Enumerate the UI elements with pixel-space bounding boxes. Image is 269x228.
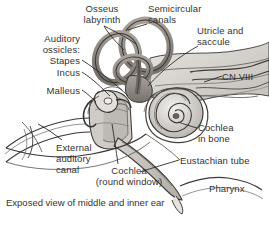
label-cn-viii: CN VIII bbox=[222, 71, 268, 82]
figure-caption: Exposed view of middle and inner ear bbox=[6, 197, 164, 208]
label-eustachian-tube: Eustachian tube bbox=[180, 155, 268, 166]
leader-malleus bbox=[82, 90, 96, 102]
label-cochlea-in-bone: Cochlea in bone bbox=[198, 122, 266, 144]
label-pharynx: Pharynx bbox=[209, 183, 265, 194]
label-utricle-and-saccule: Utricle and saccule bbox=[197, 25, 267, 47]
ear-anatomy-figure: Osseus labyrinth Auditory ossicles: Stap… bbox=[0, 0, 269, 228]
leader-external bbox=[38, 124, 62, 140]
label-incus: Incus bbox=[4, 67, 80, 78]
label-malleus: Malleus bbox=[4, 85, 80, 96]
label-auditory-ossicles-stapes: Auditory ossicles: Stapes bbox=[4, 33, 80, 66]
label-osseus-labyrinth: Osseus labyrinth bbox=[66, 3, 138, 25]
label-semicircular-canals: Semicircular canals bbox=[148, 3, 230, 25]
label-cochlea-round-window: Cochlea (round window) bbox=[86, 165, 172, 187]
